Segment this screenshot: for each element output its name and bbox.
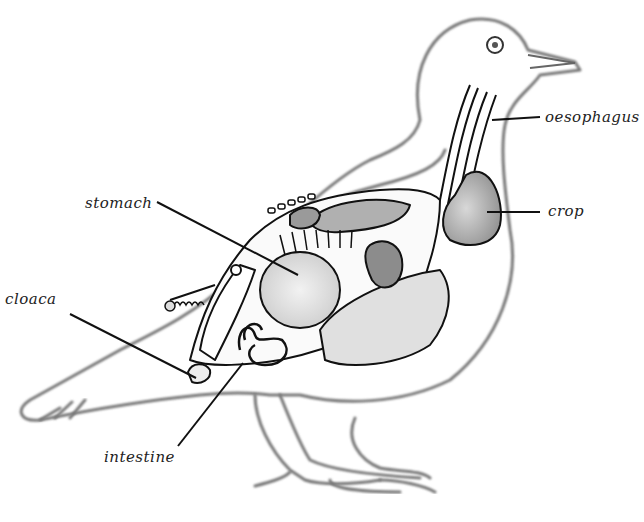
label-stomach: stomach: [85, 194, 152, 212]
label-oesophagus: oesophagus: [545, 108, 640, 126]
label-intestine: intestine: [104, 448, 175, 466]
bird-digestive-diagram: oesophagus crop stomach cloaca intestine: [0, 0, 644, 522]
label-crop: crop: [548, 202, 584, 220]
label-cloaca: cloaca: [5, 290, 57, 308]
stomach-organ: [260, 252, 340, 328]
bird-illustration: [0, 0, 644, 522]
cloaca-organ: [188, 364, 210, 383]
